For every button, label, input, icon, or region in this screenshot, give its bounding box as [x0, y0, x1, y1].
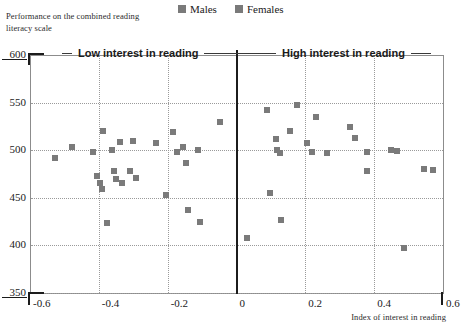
- section-label-high: High interest in reading: [282, 47, 405, 59]
- square-swatch-icon: [235, 5, 243, 13]
- scatter-point: [309, 149, 315, 155]
- scatter-point: [197, 219, 203, 225]
- section-header-high-interest: High interest in reading: [248, 47, 431, 59]
- axis-right-line: [443, 55, 444, 294]
- x-axis-tick-label: 0.2: [308, 297, 322, 309]
- rule-left: [62, 53, 72, 54]
- scatter-point: [99, 186, 105, 192]
- y-axis-tick-label: 500: [0, 143, 26, 155]
- scatter-point: [90, 149, 96, 155]
- x-axis-tick-label: 0.4: [377, 297, 391, 309]
- scatter-point: [278, 217, 284, 223]
- scatter-point: [287, 128, 293, 134]
- rule-left: [248, 53, 276, 54]
- scatter-point: [183, 160, 189, 166]
- scatter-point: [97, 180, 103, 186]
- section-label-low: Low interest in reading: [78, 47, 198, 59]
- scatter-point: [170, 129, 176, 135]
- x-axis-tick-label: -0.6: [33, 297, 50, 309]
- scatter-point: [324, 150, 330, 156]
- scatter-point: [185, 207, 191, 213]
- center-divider-zero: [236, 50, 238, 294]
- gridline-vertical: [305, 56, 306, 293]
- scatter-point: [195, 147, 201, 153]
- y-axis-tick-underline: [2, 297, 27, 298]
- chart-legend: Males Females: [178, 3, 284, 15]
- square-swatch-icon: [178, 5, 186, 13]
- scatter-point: [273, 136, 279, 142]
- scatter-point: [52, 155, 58, 161]
- scatter-point: [69, 144, 75, 150]
- scatter-point: [347, 124, 353, 130]
- gridline-vertical: [374, 56, 375, 293]
- legend-item-males: Males: [178, 3, 217, 15]
- y-axis-tick-label: 450: [0, 191, 26, 203]
- corner-tick-top-left-vert: [28, 53, 30, 65]
- scatter-point: [130, 138, 136, 144]
- scatter-point: [119, 180, 125, 186]
- scatter-point: [133, 175, 139, 181]
- corner-tick-top-left: [28, 53, 44, 55]
- legend-label-males: Males: [190, 3, 217, 15]
- scatter-point: [267, 190, 273, 196]
- scatter-point: [264, 107, 270, 113]
- scatter-point: [277, 150, 283, 156]
- rule-right: [411, 53, 431, 54]
- scatter-point: [364, 149, 370, 155]
- x-axis-tick-label: 0.6: [446, 297, 460, 309]
- scatter-point: [217, 119, 223, 125]
- legend-label-females: Females: [247, 3, 284, 15]
- scatter-point: [421, 166, 427, 172]
- scatter-point: [100, 128, 106, 134]
- scatter-point: [163, 192, 169, 198]
- scatter-point: [304, 140, 310, 146]
- y-axis-tick-underline: [2, 59, 27, 60]
- x-axis-tick-label: -0.2: [171, 297, 188, 309]
- section-header-low-interest: Low interest in reading: [62, 47, 256, 59]
- scatter-point: [364, 168, 370, 174]
- y-axis-tick-label: 400: [0, 238, 26, 250]
- scatter-point: [394, 148, 400, 154]
- scatter-point: [104, 220, 110, 226]
- scatter-point: [111, 168, 117, 174]
- figure-note: Performance on the combined reading lite…: [6, 11, 166, 34]
- scatter-point: [180, 144, 186, 150]
- gridline-vertical: [168, 56, 169, 293]
- x-axis-tick-label: 0: [240, 297, 246, 309]
- scatter-point: [294, 102, 300, 108]
- scatter-point: [401, 245, 407, 251]
- scatter-point: [244, 235, 250, 241]
- axis-y-line: [30, 55, 31, 294]
- corner-tick-bottom-right-vert: [441, 292, 443, 305]
- scatter-point: [109, 147, 115, 153]
- corner-tick-bottom-left: [28, 292, 44, 294]
- scatter-point: [430, 167, 436, 173]
- scatter-point: [153, 140, 159, 146]
- x-axis-title: Index of interest in reading: [351, 312, 446, 322]
- scatter-point: [127, 168, 133, 174]
- scatter-point: [94, 173, 100, 179]
- scatter-point: [313, 114, 319, 120]
- y-axis-tick-label: 550: [0, 96, 26, 108]
- scatter-point: [352, 135, 358, 141]
- scatter-point: [113, 176, 119, 182]
- x-axis-tick-label: -0.4: [102, 297, 119, 309]
- scatter-point: [117, 139, 123, 145]
- legend-item-females: Females: [235, 3, 284, 15]
- corner-tick-bottom-left-vert: [28, 292, 30, 305]
